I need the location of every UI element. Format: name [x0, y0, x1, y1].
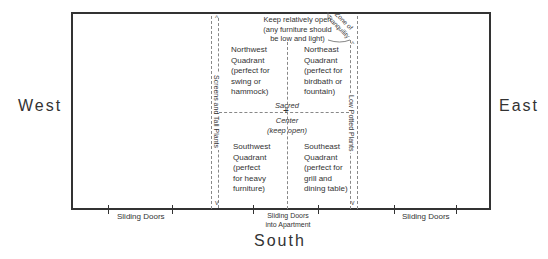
west-label: West [18, 97, 62, 115]
east-label: East [499, 97, 539, 115]
southwest-quadrant: Southwest Quadrant (perfect for heavy fu… [233, 142, 270, 195]
sliding-doors-right-label: Sliding Doors [402, 212, 450, 221]
door-tick [318, 205, 319, 214]
arrow-down-icon: v [351, 199, 355, 206]
sacred-label: Sacred [270, 101, 304, 111]
door-tick [172, 205, 173, 214]
sliding-doors-left-label: Sliding Doors [117, 212, 165, 221]
left-band-outer-line [211, 16, 212, 209]
south-label: South [254, 232, 306, 250]
arrow-down-icon: v [215, 199, 219, 206]
northwest-quadrant: Northwest Quadrant (perfect for swing or… [231, 45, 270, 98]
center-label: Center (keep open) [262, 116, 312, 135]
arrow-up-icon: ^ [215, 14, 218, 21]
northeast-quadrant: Northeast Quadrant (perfect for birdbath… [304, 45, 343, 98]
sliding-doors-center-label: Sliding Doors into Apartment [262, 212, 314, 229]
door-tick [108, 205, 109, 214]
door-tick [394, 205, 395, 214]
door-tick [456, 205, 457, 214]
southeast-quadrant: Southeast Quadrant (perfect for grill an… [304, 142, 348, 195]
zone-arc [320, 10, 360, 50]
door-tick [253, 205, 254, 214]
right-band-label: Low Potted Plants [348, 93, 355, 153]
